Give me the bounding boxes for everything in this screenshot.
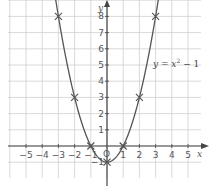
origin-label: O [103,149,110,159]
svg-text:1: 1 [120,150,126,160]
tick-labels: −5−4−3−2−112345−112345678 [19,11,191,167]
svg-text:3: 3 [153,150,159,160]
svg-text:4: 4 [169,150,175,160]
svg-text:−2: −2 [68,150,81,160]
svg-text:−5: −5 [19,150,32,160]
svg-text:7: 7 [98,28,104,38]
svg-text:4: 4 [98,76,104,86]
svg-text:6: 6 [98,44,104,54]
svg-text:−3: −3 [52,150,65,160]
svg-text:2: 2 [137,150,143,160]
svg-text:−4: −4 [36,150,50,160]
eq-equals: = [158,59,171,69]
svg-text:5: 5 [185,150,191,160]
y-axis-label: y [97,3,104,13]
equation-label: y = x2 − 1 [152,57,199,69]
svg-text:5: 5 [98,60,104,70]
parabola-graph: −5−4−3−2−112345−112345678 y x O y = x2 −… [0,0,209,186]
x-axis-label: x [197,149,202,159]
eq-rest: − 1 [180,59,199,69]
svg-text:3: 3 [98,92,104,102]
svg-text:2: 2 [98,109,104,119]
svg-text:−1: −1 [91,157,104,167]
svg-text:1: 1 [98,125,104,135]
